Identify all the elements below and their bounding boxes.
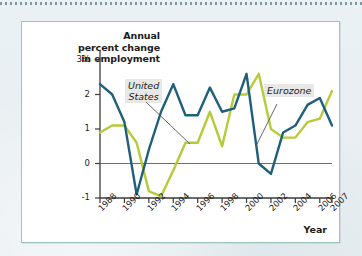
- y-tick-label-0: 0: [64, 158, 90, 168]
- y-tick-label--1: -1: [64, 192, 90, 202]
- y-tick-label-1: 1: [64, 123, 90, 133]
- dotted-rule-divider: [0, 2, 362, 5]
- page-background: Annual percent change in employment Year…: [0, 0, 362, 256]
- y-tick-label-2: 2: [64, 89, 90, 99]
- figure-panel: Annual percent change in employment Year…: [21, 21, 340, 243]
- y-tick-label-3%: 3%: [64, 54, 90, 64]
- y-axis-ticks: [95, 60, 100, 198]
